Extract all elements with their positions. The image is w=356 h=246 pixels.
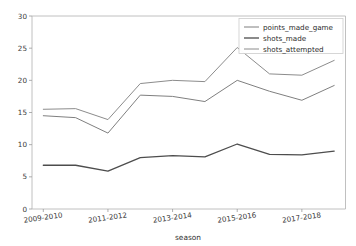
legend-label-points-made-game: points_made_game <box>263 23 334 32</box>
line-chart-canvas: 051015202530 2009-20102011-20122013-2014… <box>0 0 356 246</box>
series-line-shots-made <box>43 144 334 171</box>
y-tick-label: 5 <box>22 172 27 181</box>
legend-label-shots-attempted: shots_attempted <box>263 45 324 54</box>
y-tick-label: 15 <box>18 108 27 117</box>
chart-legend: points_made_gameshots_madeshots_attempte… <box>239 19 343 54</box>
series-lines <box>43 48 334 172</box>
x-tick-label: 2011-2012 <box>88 210 128 224</box>
y-tick-label: 0 <box>22 205 27 214</box>
y-tick-label: 20 <box>18 76 28 85</box>
x-tick-label: 2017-2018 <box>281 210 321 224</box>
y-tick-label: 25 <box>18 44 27 53</box>
series-line-shots-attempted <box>43 48 334 120</box>
legend-label-shots-made: shots_made <box>263 34 307 43</box>
y-tick-label: 10 <box>18 140 28 149</box>
x-axis-ticks: 2009-20102011-20122013-20142015-20162017… <box>23 209 322 225</box>
series-line-points-made-game <box>43 80 334 133</box>
x-axis-label: season <box>175 233 201 242</box>
y-axis-ticks: 051015202530 <box>18 12 32 214</box>
chart-figure: 051015202530 2009-20102011-20122013-2014… <box>0 0 356 246</box>
x-tick-label: 2009-2010 <box>23 210 63 224</box>
y-tick-label: 30 <box>18 12 28 21</box>
x-tick-label: 2015-2016 <box>217 210 257 224</box>
clipped-title-text <box>30 0 280 4</box>
x-tick-label: 2013-2014 <box>152 210 192 224</box>
